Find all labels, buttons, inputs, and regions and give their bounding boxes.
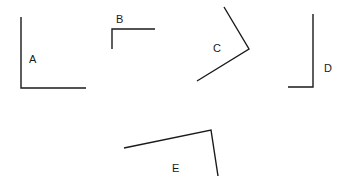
angle-shape-c: [197, 7, 249, 81]
angle-label-c: C: [213, 43, 221, 54]
angle-label-e: E: [172, 163, 179, 174]
angle-shapes-svg: [0, 0, 355, 188]
angle-shape-b: [112, 29, 155, 49]
angle-label-b: B: [116, 14, 123, 25]
angle-label-a: A: [29, 54, 36, 65]
angle-figure-canvas: A B C D E: [0, 0, 355, 188]
angle-label-d: D: [324, 63, 332, 74]
angle-shape-d: [288, 14, 313, 87]
angle-shape-e: [124, 130, 218, 176]
